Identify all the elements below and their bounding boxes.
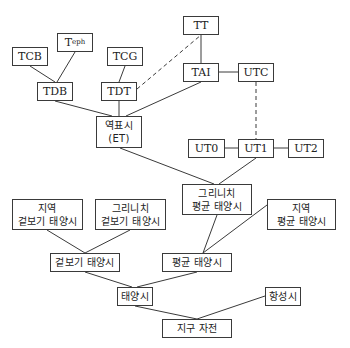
node-et: 역표시 (ET): [96, 116, 142, 148]
node-utc: UTC: [238, 63, 274, 82]
node-label: TCB: [18, 50, 42, 63]
node-er: 지구 자전: [162, 319, 232, 338]
node-ast: 겉보기 태양시: [50, 253, 120, 272]
node-tcg: TCG: [107, 47, 143, 66]
node-tdt: TDT: [101, 82, 137, 101]
node-label: TCG: [113, 50, 138, 63]
node-st: 태양시: [117, 287, 153, 306]
edge-st-er: [135, 306, 197, 319]
node-tt: TT: [183, 16, 219, 35]
edge-tcb-tdb: [30, 66, 55, 82]
node-label: 항성시: [269, 290, 297, 303]
node-label: 태양시: [121, 290, 149, 303]
node-gast: 그리니치 겉보기 태양시: [95, 199, 166, 230]
node-label: UT2: [294, 142, 318, 155]
node-label: 그리니치 평균 태양시: [192, 187, 242, 213]
edge-ast-st: [85, 272, 132, 287]
node-last: 지역 겉보기 태양시: [12, 199, 83, 230]
edge-mst-st: [137, 272, 197, 287]
node-label: TT: [194, 19, 209, 32]
node-label: UTC: [243, 66, 268, 79]
node-label: 평균 태양시: [172, 256, 222, 269]
node-label: 지역 평균 태양시: [277, 202, 327, 228]
node-ut0: UT0: [188, 139, 225, 158]
node-teph: Teph: [57, 33, 93, 52]
node-label: 겉보기 태양시: [55, 256, 114, 269]
node-label: T: [65, 36, 72, 49]
time-scale-diagram: TCBTephTCGTTTDBTDTTAIUTC역표시 (ET)UT0UT1UT…: [0, 0, 350, 348]
edge-last-ast: [47, 230, 85, 253]
node-label: TDT: [107, 85, 131, 98]
node-sid: 항성시: [265, 287, 301, 306]
node-label: 그리니치 겉보기 태양시: [101, 202, 160, 228]
edge-tai-et: [126, 82, 201, 116]
node-gmst: 그리니치 평균 태양시: [182, 184, 252, 215]
node-label: 지역 겉보기 태양시: [18, 202, 77, 228]
node-label-subscript: eph: [72, 36, 85, 49]
node-label: TDB: [43, 85, 67, 98]
edge-gast-ast: [85, 230, 130, 253]
node-mst: 평균 태양시: [162, 253, 232, 272]
edge-tcg-tdt: [119, 66, 125, 82]
node-lmst: 지역 평균 태양시: [267, 199, 336, 230]
edge-ut1-gmst: [219, 158, 256, 184]
edge-tdb-et: [55, 101, 112, 116]
node-tai: TAI: [183, 63, 219, 82]
node-ut1: UT1: [238, 139, 274, 158]
edge-sid-er: [197, 296, 265, 319]
node-tcb: TCB: [12, 47, 48, 66]
node-label: 역표시 (ET): [105, 119, 133, 145]
node-tdb: TDB: [37, 82, 73, 101]
node-label: UT1: [244, 142, 268, 155]
node-label: TAI: [191, 66, 210, 79]
node-label: UT0: [195, 142, 219, 155]
edge-teph-tdb: [57, 52, 75, 82]
node-label: 지구 자전: [177, 322, 218, 335]
node-ut2: UT2: [288, 139, 324, 158]
